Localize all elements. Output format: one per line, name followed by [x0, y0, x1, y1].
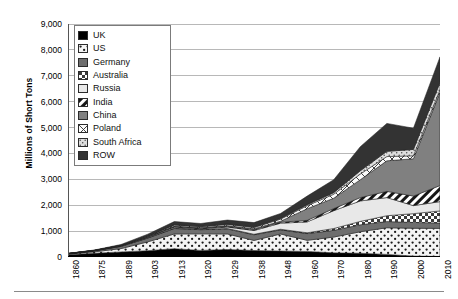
legend-swatch-solid-midgray — [78, 58, 88, 67]
legend-item[interactable]: Russia — [78, 82, 166, 95]
x-tick-label: 1913 — [178, 260, 187, 279]
x-tick-label: 1875 — [98, 260, 107, 279]
legend-item[interactable]: Australia — [78, 69, 166, 82]
y-tick-label: 9,000 — [41, 20, 62, 29]
legend-swatch-sparse-dots — [78, 44, 88, 53]
legend-item[interactable]: South Africa — [78, 135, 166, 148]
y-tick-label: 4,000 — [41, 149, 62, 158]
legend-label: Germany — [93, 58, 130, 67]
x-tick-label: 1980 — [364, 260, 373, 279]
legend-swatch-cross-diagonal — [78, 124, 88, 133]
legend-label: UK — [93, 31, 106, 40]
legend-item[interactable]: India — [78, 95, 166, 108]
x-tick-label: 1938 — [258, 260, 267, 279]
legend-swatch-checker — [78, 71, 88, 80]
x-tick-label: 1889 — [125, 260, 134, 279]
y-tick-label: 0 — [57, 253, 62, 262]
x-axis-tick-labels: 1860187518891903191319201929193819481960… — [68, 260, 440, 294]
x-tick-label: 1860 — [72, 260, 81, 279]
legend-item[interactable]: Poland — [78, 122, 166, 135]
footer-rule — [14, 291, 444, 292]
legend-swatch-solid-black — [78, 31, 88, 40]
y-axis-tick-labels: 01,0002,0003,0004,0005,0006,0007,0008,00… — [18, 24, 62, 257]
y-tick-label: 6,000 — [41, 97, 62, 106]
legend-label: Russia — [93, 84, 121, 93]
legend-item[interactable]: ROW — [78, 149, 166, 162]
legend-swatch-solid-darkgray — [78, 151, 88, 160]
y-tick-label: 7,000 — [41, 72, 62, 81]
y-tick-label: 5,000 — [41, 123, 62, 132]
x-tick-label: 1990 — [390, 260, 399, 279]
legend-label: China — [93, 111, 117, 120]
legend-label: US — [93, 44, 106, 53]
legend-label: India — [93, 98, 113, 107]
legend-label: South Africa — [93, 138, 142, 147]
legend-label: ROW — [93, 151, 115, 160]
chart-figure: Millions of Short Tons 01,0002,0003,0004… — [0, 0, 458, 299]
legend-swatch-diagonal-stripe — [78, 98, 88, 107]
x-tick-label: 2000 — [417, 260, 426, 279]
x-tick-label: 1929 — [231, 260, 240, 279]
legend-item[interactable]: Germany — [78, 56, 166, 69]
x-tick-label: 1970 — [337, 260, 346, 279]
chart-legend: UKUSGermanyAustraliaRussiaIndiaChinaPola… — [74, 25, 171, 166]
legend-label: Poland — [93, 124, 121, 133]
x-tick-label: 1903 — [151, 260, 160, 279]
legend-item[interactable]: China — [78, 109, 166, 122]
x-tick-label: 2010 — [444, 260, 453, 279]
x-tick-label: 1920 — [204, 260, 213, 279]
legend-item[interactable]: UK — [78, 29, 166, 42]
y-tick-label: 2,000 — [41, 201, 62, 210]
x-tick-label: 1948 — [284, 260, 293, 279]
y-tick-label: 1,000 — [41, 227, 62, 236]
x-tick-label: 1960 — [311, 260, 320, 279]
legend-label: Australia — [93, 71, 128, 80]
legend-swatch-solid-lightgray — [78, 84, 88, 93]
legend-item[interactable]: US — [78, 42, 166, 55]
y-tick-label: 8,000 — [41, 46, 62, 55]
legend-swatch-solid-gray — [78, 111, 88, 120]
legend-swatch-fine-dots — [78, 138, 88, 147]
y-tick-label: 3,000 — [41, 175, 62, 184]
